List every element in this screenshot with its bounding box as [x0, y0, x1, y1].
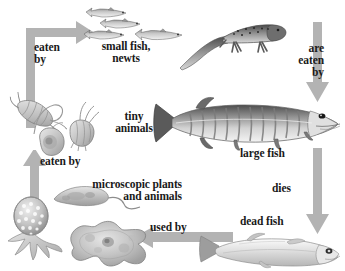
food-chain-diagram: eaten by small fish, newts are eaten by …: [0, 0, 345, 271]
label-microscopic-plants-and-animals: microscopic plants and animals: [60, 178, 182, 202]
amoeba-illustration: [62, 218, 154, 270]
label-small-fish-newts: small fish, newts: [86, 40, 166, 64]
arrow-dies: [304, 148, 332, 238]
zooplankton-group-illustration: [4, 92, 104, 164]
label-eaten-by-mid: eaten by: [40, 155, 80, 167]
label-large-fish: large fish: [240, 147, 285, 159]
label-tiny-animals: tiny animals: [98, 110, 170, 134]
label-dead-fish: dead fish: [240, 215, 284, 227]
dead-fish-illustration: [199, 232, 345, 271]
large-fish-illustration: [152, 96, 344, 154]
label-used-by: used by: [150, 221, 187, 233]
label-eaten-by-top: eaten by: [34, 41, 60, 65]
label-are-eaten-by: are eaten by: [266, 42, 324, 78]
label-dies: dies: [272, 182, 291, 194]
